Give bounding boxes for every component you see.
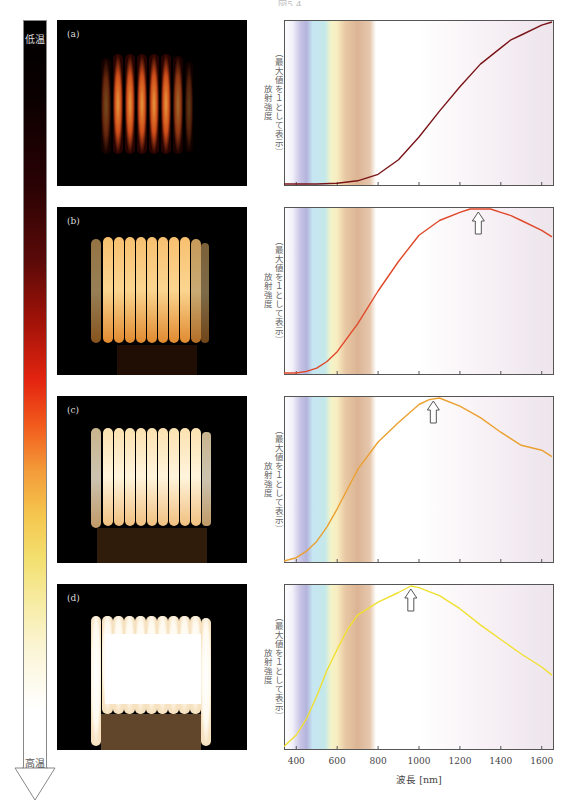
photo-label: (d)	[67, 593, 80, 603]
y-axis-label: 放射強度 （最大値を１として表示）	[258, 20, 286, 186]
high-temperature-label: 高温	[23, 758, 47, 770]
photo-b: (b)	[57, 207, 247, 375]
x-tick-label: 1600	[530, 756, 553, 766]
spectrum-chart-a: 放射強度 （最大値を１として表示）	[258, 20, 568, 186]
x-axis-tick-labels: 4006008001000120014001600	[284, 756, 554, 770]
photo-label: (c)	[67, 405, 79, 415]
plot-area	[284, 584, 554, 750]
glowing-coil-image	[57, 20, 247, 186]
plot-area	[284, 396, 554, 563]
temperature-gradient-bar	[23, 20, 47, 770]
glowing-coil-image	[57, 396, 247, 563]
x-axis-label: 波長 [nm]	[284, 772, 554, 786]
glowing-coil-image	[57, 207, 247, 375]
photo-label: (a)	[67, 29, 79, 39]
x-tick-label: 1000	[408, 756, 431, 766]
glowing-coil-image	[57, 584, 247, 750]
photo-c: (c)	[57, 396, 247, 563]
x-tick-label: 1400	[489, 756, 512, 766]
x-tick-label: 800	[369, 756, 386, 766]
y-axis-label: 放射強度 （最大値を１として表示）	[258, 584, 286, 750]
y-axis-label: 放射強度 （最大値を１として表示）	[258, 396, 286, 563]
plot-area	[284, 20, 554, 186]
spectrum-chart-c: 放射強度 （最大値を１として表示）	[258, 396, 568, 563]
photo-a: (a)	[57, 20, 247, 186]
spectrum-chart-b: 放射強度 （最大値を１として表示）	[258, 207, 568, 375]
photo-d: (d)	[57, 584, 247, 750]
y-axis-label: 放射強度 （最大値を１として表示）	[258, 207, 286, 375]
x-tick-label: 400	[288, 756, 305, 766]
x-tick-label: 1200	[448, 756, 471, 766]
x-tick-label: 600	[329, 756, 346, 766]
arrow-down-icon	[14, 767, 56, 801]
page-title: 図5.4	[0, 0, 580, 6]
plot-area	[284, 207, 554, 375]
low-temperature-label: 低温	[23, 34, 47, 46]
photo-label: (b)	[67, 216, 80, 226]
spectrum-chart-d: 放射強度 （最大値を１として表示）	[258, 584, 568, 750]
